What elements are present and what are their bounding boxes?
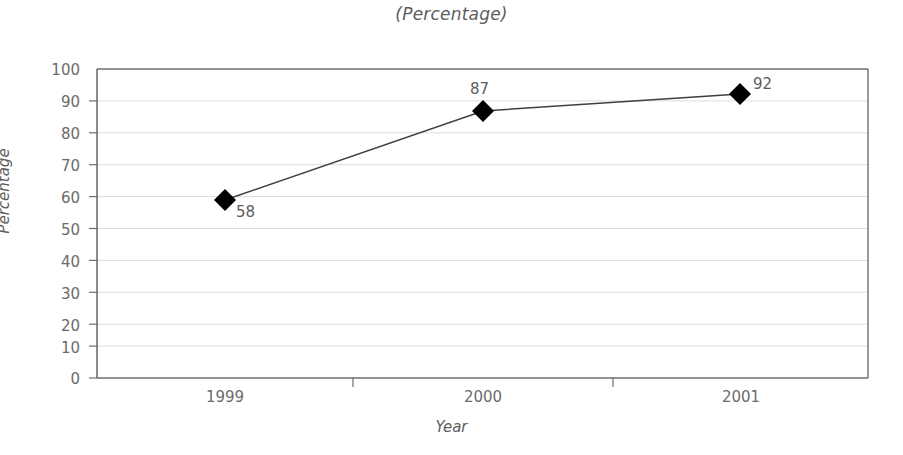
y-tick-label-20: 20 [34, 317, 80, 335]
data-point-marker [472, 100, 494, 122]
y-tick-label-100: 100 [34, 61, 80, 79]
y-tick-label-60: 60 [34, 189, 80, 207]
y-tick-label-70: 70 [34, 157, 80, 175]
x-tick-label-2001: 2001 [681, 388, 801, 406]
x-tick-label-2000: 2000 [423, 388, 543, 406]
y-tick-label-40: 40 [34, 253, 80, 271]
data-point-marker [729, 83, 751, 105]
y-tick-label-50: 50 [34, 221, 80, 239]
data-point-markers [214, 83, 751, 211]
y-axis-ticks [89, 101, 97, 378]
data-point-label-1999: 58 [236, 203, 255, 221]
y-tick-label-80: 80 [34, 125, 80, 143]
y-axis-title: Percentage [0, 121, 13, 261]
x-axis-title: Year [0, 418, 903, 436]
plot-area [0, 0, 903, 455]
line-chart: (Percentage) [0, 0, 903, 455]
data-point-marker [214, 189, 236, 211]
gridlines [97, 101, 868, 346]
data-point-label-2000: 87 [470, 80, 489, 98]
y-tick-label-10: 10 [34, 339, 80, 357]
x-tick-label-1999: 1999 [165, 388, 285, 406]
y-tick-label-30: 30 [34, 285, 80, 303]
y-tick-label-90: 90 [34, 93, 80, 111]
data-point-label-2001: 92 [753, 75, 772, 93]
x-axis-ticks [353, 378, 613, 387]
y-tick-label-0: 0 [34, 370, 80, 388]
